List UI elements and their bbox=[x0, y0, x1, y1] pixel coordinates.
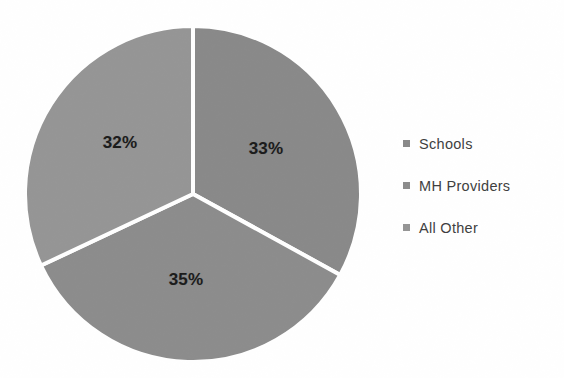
slice-label-schools: 33% bbox=[249, 139, 284, 159]
legend-item-schools[interactable]: Schools bbox=[403, 133, 563, 154]
slice-label-all-other: 32% bbox=[103, 133, 138, 153]
legend-item-label: All Other bbox=[419, 220, 478, 236]
legend-item-label: MH Providers bbox=[419, 178, 510, 194]
legend-item-label: Schools bbox=[419, 136, 473, 152]
legend-item-all-other[interactable]: All Other bbox=[403, 217, 563, 238]
pie-chart-figure: 33% 35% 32% Schools MH Providers All Oth… bbox=[0, 0, 564, 378]
square-marker-icon bbox=[403, 224, 410, 231]
square-marker-icon bbox=[403, 182, 410, 189]
pie-plot-area: 33% 35% 32% bbox=[0, 0, 390, 378]
chart-legend: Schools MH Providers All Other bbox=[403, 133, 563, 259]
slice-label-mh-providers: 35% bbox=[169, 270, 204, 290]
pie-svg bbox=[0, 0, 390, 378]
pie-slice-group bbox=[25, 26, 361, 362]
legend-item-mh-providers[interactable]: MH Providers bbox=[403, 175, 563, 196]
square-marker-icon bbox=[403, 140, 410, 147]
